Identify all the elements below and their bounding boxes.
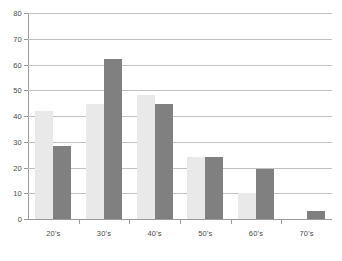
x-tick-label: 40's [147,229,161,238]
bar-dark [307,211,325,219]
bar-light [187,157,205,219]
bar-dark [256,169,274,219]
bar-groups [28,13,332,219]
bar-light [137,95,155,219]
bar-group [79,13,130,219]
bar-dark [53,146,71,219]
x-tick-mark [79,220,80,224]
x-tick-mark [281,220,282,224]
y-tick-label: 40 [13,112,22,121]
x-tick-label: 20's [46,229,60,238]
y-tick-label: 60 [13,60,22,69]
bar-group [129,13,180,219]
x-tick-mark [180,220,181,224]
x-tick-label: 30's [97,229,111,238]
bar-dark [205,157,223,219]
x-tick-label: 70's [299,229,313,238]
bar-light [35,111,53,219]
y-tick-label: 80 [13,9,22,18]
y-tick-mark [24,219,28,220]
bar-light [86,104,104,219]
y-tick-label: 70 [13,34,22,43]
bar-group [281,13,332,219]
x-tick-label: 60's [249,229,263,238]
bar-dark [155,104,173,219]
bar-group [28,13,79,219]
y-tick-label: 10 [13,189,22,198]
plot-area: 01020304050607080 [28,13,332,219]
bar-chart: 01020304050607080 20's30's40's50's60's70… [0,0,342,261]
bar-group [231,13,282,219]
x-tick-label: 50's [198,229,212,238]
bar-group [180,13,231,219]
y-tick-label: 20 [13,163,22,172]
y-tick-label: 30 [13,137,22,146]
bar-light [238,193,256,219]
bar-dark [104,59,122,219]
x-tick-mark [231,220,232,224]
x-tick-mark [129,220,130,224]
y-tick-label: 50 [13,86,22,95]
y-tick-label: 0 [18,215,22,224]
